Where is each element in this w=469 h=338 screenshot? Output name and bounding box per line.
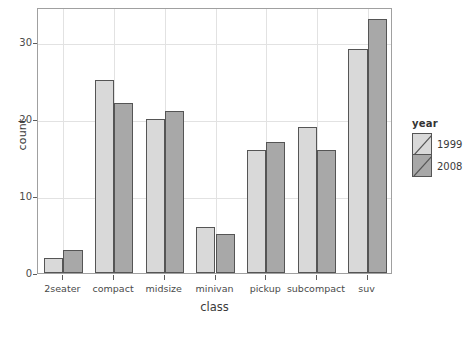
bar-2seater-1999	[44, 258, 63, 273]
bar-midsize-1999	[146, 119, 165, 273]
x-tick-label-midsize: midsize	[146, 283, 182, 294]
x-axis-title: class	[37, 300, 392, 314]
plot-panel	[37, 8, 392, 274]
x-tick-mark	[316, 275, 317, 280]
x-tick-label-2seater: 2seater	[44, 283, 80, 294]
bar-midsize-2008	[165, 111, 184, 273]
bar-subcompact-1999	[298, 127, 317, 273]
legend-key-2008	[412, 155, 432, 177]
legend-key-1999	[412, 133, 432, 155]
bar-minivan-2008	[216, 234, 235, 273]
x-tick-label-compact: compact	[93, 283, 134, 294]
x-tick-mark	[215, 275, 216, 280]
bar-pickup-1999	[247, 150, 266, 273]
legend-label-2008: 2008	[437, 161, 462, 172]
y-tick-label: 30	[19, 37, 32, 49]
y-axis-tick-labels: 0102030	[10, 0, 32, 338]
bar-chart: count 0102030 2seatercompactmidsizeminiv…	[0, 0, 469, 338]
x-tick-label-suv: suv	[358, 283, 375, 294]
x-tick-mark	[62, 275, 63, 280]
legend-entry-1999: 1999	[412, 133, 469, 155]
x-tick-label-subcompact: subcompact	[287, 283, 345, 294]
x-tick-mark	[265, 275, 266, 280]
gridline-horizontal	[38, 121, 391, 122]
x-tick-label-minivan: minivan	[195, 283, 233, 294]
legend-entries: 19992008	[412, 133, 469, 177]
y-tick-mark	[33, 274, 37, 275]
y-tick-label: 0	[26, 268, 32, 280]
bar-compact-2008	[114, 103, 133, 273]
gridline-horizontal	[38, 198, 391, 199]
bar-pickup-2008	[266, 142, 285, 273]
bar-suv-2008	[368, 19, 387, 273]
bar-subcompact-2008	[317, 150, 336, 273]
bar-compact-1999	[95, 80, 114, 273]
x-tick-mark	[113, 275, 114, 280]
y-tick-label: 10	[19, 191, 32, 203]
x-tick-mark	[367, 275, 368, 280]
x-tick-mark	[164, 275, 165, 280]
legend-entry-2008: 2008	[412, 155, 469, 177]
legend: year 19992008	[412, 118, 469, 177]
bar-minivan-1999	[196, 227, 215, 273]
y-tick-label: 20	[19, 114, 32, 126]
gridline-vertical	[63, 9, 64, 273]
gridline-vertical	[216, 9, 217, 273]
legend-title: year	[412, 118, 469, 129]
gridline-horizontal	[38, 44, 391, 45]
bar-2seater-2008	[63, 250, 82, 273]
legend-label-1999: 1999	[437, 139, 462, 150]
bar-suv-1999	[348, 49, 367, 273]
x-tick-label-pickup: pickup	[250, 283, 281, 294]
